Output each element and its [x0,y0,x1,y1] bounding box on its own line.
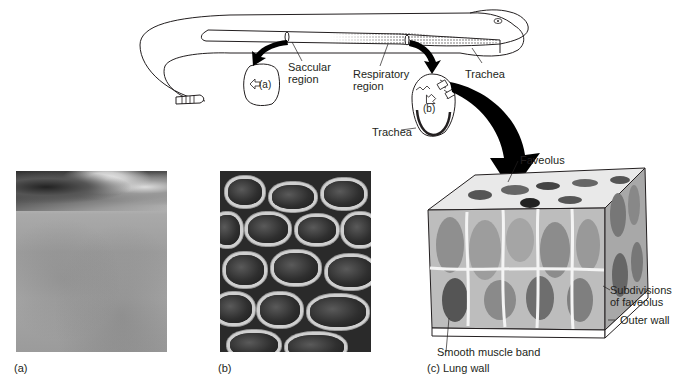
label-saccular-line2: region [288,73,331,85]
label-trachea-head: Trachea [465,68,505,80]
label-saccular-region: Saccular region [288,61,331,85]
sem-photo-saccular-region [16,171,167,352]
label-respiratory-line1: Respiratory [353,68,409,80]
section-ring-b [405,35,409,45]
label-smooth-muscle-band: Smooth muscle band [437,346,540,358]
lung-wall-block [428,168,648,338]
caption-panel-c: (c) Lung wall [427,362,489,374]
label-faveolus: Faveolus [520,154,565,166]
photo-a-surface-debris [16,171,167,211]
label-respiratory-line2: region [353,80,409,92]
label-saccular-line1: Saccular [288,61,331,73]
label-subdivisions-of-faveolus: Subdivisions of faveolus [610,284,672,308]
marker-section-a: (a) [259,79,271,91]
label-outer-wall: Outer wall [620,314,670,326]
snake-tail [176,95,204,104]
caption-panel-b: (b) [218,362,231,374]
label-respiratory-region: Respiratory region [353,68,409,92]
label-trachea-lung: Trachea [372,126,412,138]
label-subdivisions-line1: Subdivisions [610,284,672,296]
sem-photo-respiratory-region [220,171,371,352]
caption-panel-a: (a) [14,362,27,374]
label-subdivisions-line2: of faveolus [610,296,672,308]
marker-section-b: (b) [423,103,435,115]
